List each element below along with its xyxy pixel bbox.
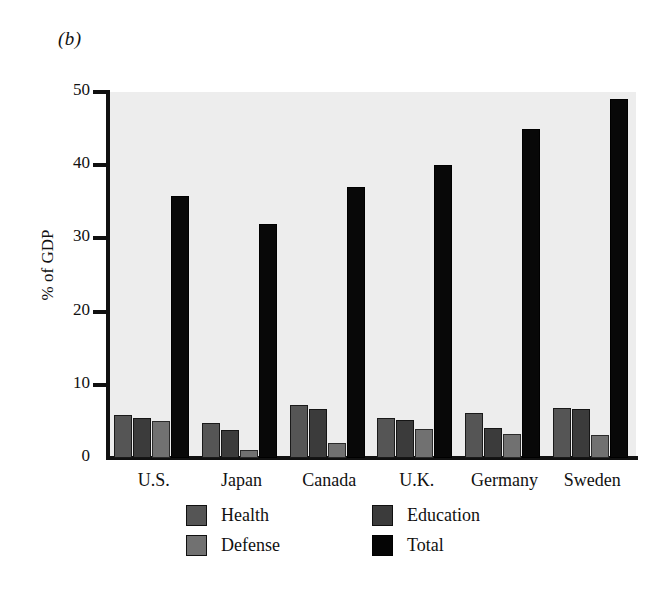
- bar-health-sweden: [553, 408, 571, 458]
- x-label-uk: U.K.: [373, 470, 461, 491]
- bar-defense-sweden: [591, 435, 609, 458]
- legend-item-education[interactable]: Education: [372, 503, 480, 527]
- bar-health-uk: [377, 418, 395, 458]
- bar-total-us: [171, 196, 189, 458]
- bar-health-canada: [290, 405, 308, 458]
- bar-group-japan: [198, 92, 286, 458]
- y-tick-label-10: 10: [52, 374, 90, 391]
- legend-swatch-defense: [186, 535, 207, 556]
- bar-education-canada: [309, 409, 327, 458]
- legend-label-education: Education: [407, 505, 480, 526]
- bar-group-germany: [461, 92, 549, 458]
- x-label-us: U.S.: [110, 470, 198, 491]
- x-label-sweden: Sweden: [548, 470, 636, 491]
- y-tick-label-50: 50: [52, 81, 90, 98]
- y-tick-10: [93, 383, 106, 387]
- y-tick-40: [93, 163, 106, 167]
- bar-education-us: [133, 418, 151, 458]
- legend-label-health: Health: [221, 505, 269, 526]
- bar-total-canada: [347, 187, 365, 458]
- bar-group-uk: [373, 92, 461, 458]
- legend-label-defense: Defense: [221, 535, 280, 556]
- y-tick-20: [93, 310, 106, 314]
- bar-health-germany: [465, 413, 483, 458]
- figure-panel-b: (b) % of GDP 01020304050 U.S.JapanCanada…: [0, 0, 669, 606]
- bar-defense-japan: [240, 450, 258, 458]
- bar-total-japan: [259, 224, 277, 458]
- bar-total-sweden: [610, 99, 628, 458]
- bar-education-sweden: [572, 409, 590, 458]
- legend: HealthEducationDefenseTotal: [186, 503, 516, 561]
- bar-group-us: [110, 92, 198, 458]
- bar-group-sweden: [548, 92, 636, 458]
- legend-label-total: Total: [407, 535, 444, 556]
- y-tick-50: [93, 90, 106, 94]
- bar-education-japan: [221, 430, 239, 458]
- bar-health-us: [114, 415, 132, 458]
- bar-defense-us: [152, 421, 170, 458]
- y-tick-label-0: 0: [52, 447, 90, 464]
- legend-item-health[interactable]: Health: [186, 503, 269, 527]
- x-label-canada: Canada: [285, 470, 373, 491]
- bar-education-uk: [396, 420, 414, 458]
- legend-swatch-education: [372, 505, 393, 526]
- bar-total-uk: [434, 165, 452, 458]
- bar-group-canada: [285, 92, 373, 458]
- bar-defense-uk: [415, 429, 433, 458]
- y-tick-label-40: 40: [52, 154, 90, 171]
- y-tick-label-30: 30: [52, 227, 90, 244]
- bar-health-japan: [202, 423, 220, 458]
- bar-total-germany: [522, 129, 540, 458]
- legend-item-total[interactable]: Total: [372, 533, 444, 557]
- panel-label: (b): [58, 28, 82, 50]
- x-label-japan: Japan: [198, 470, 286, 491]
- bar-defense-canada: [328, 443, 346, 458]
- legend-swatch-total: [372, 535, 393, 556]
- bar-defense-germany: [503, 434, 521, 458]
- bar-education-germany: [484, 428, 502, 458]
- x-label-germany: Germany: [461, 470, 549, 491]
- y-tick-label-20: 20: [52, 301, 90, 318]
- y-tick-30: [93, 236, 106, 240]
- legend-item-defense[interactable]: Defense: [186, 533, 280, 557]
- legend-swatch-health: [186, 505, 207, 526]
